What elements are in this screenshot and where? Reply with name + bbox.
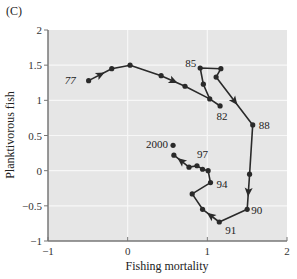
data-point	[218, 66, 223, 71]
data-point	[217, 219, 222, 224]
year-label: 94	[217, 178, 229, 190]
data-point	[86, 78, 91, 83]
year-label: 82	[217, 110, 228, 122]
data-point	[190, 191, 195, 196]
year-label: 2000	[146, 138, 169, 150]
data-point	[171, 153, 176, 158]
data-point	[127, 63, 132, 68]
data-point	[250, 122, 255, 127]
data-point	[186, 165, 191, 170]
y-tick-label: 0.5	[28, 130, 42, 142]
data-point	[207, 96, 212, 101]
x-axis-title: Fishing mortality	[125, 259, 208, 273]
year-label: 91	[225, 224, 236, 236]
data-point	[247, 172, 252, 177]
y-axis-ticks: −1−0.500.511.52	[22, 24, 48, 247]
data-point	[200, 207, 205, 212]
data-point	[159, 73, 164, 78]
year-label: 85	[185, 57, 197, 69]
y-tick-label: −0.5	[22, 200, 42, 212]
data-point	[198, 65, 203, 70]
data-point	[206, 168, 211, 173]
data-point	[213, 75, 218, 80]
y-tick-label: −1	[30, 235, 42, 247]
data-point	[170, 143, 175, 148]
data-point	[245, 207, 250, 212]
data-point	[201, 82, 206, 87]
year-label: 77	[65, 74, 77, 86]
chart: −1012 −1−0.500.511.52 778285889091949720…	[0, 0, 297, 279]
data-point	[217, 103, 222, 108]
data-point	[182, 84, 187, 89]
y-tick-label: 1.5	[28, 59, 42, 71]
y-tick-label: 0	[37, 165, 43, 177]
x-tick-label: −1	[42, 245, 54, 257]
y-tick-label: 2	[37, 24, 43, 36]
y-axis-title: Planktivorous fish	[3, 91, 17, 179]
x-tick-label: 1	[205, 245, 211, 257]
x-tick-label: 2	[284, 245, 290, 257]
data-point	[194, 163, 199, 168]
year-label: 97	[197, 148, 209, 160]
data-point	[200, 167, 205, 172]
data-point	[109, 66, 114, 71]
year-label: 88	[259, 119, 271, 131]
y-tick-label: 1	[37, 94, 43, 106]
x-tick-label: 0	[125, 245, 131, 257]
data-point	[208, 180, 213, 185]
year-label: 90	[251, 204, 263, 216]
